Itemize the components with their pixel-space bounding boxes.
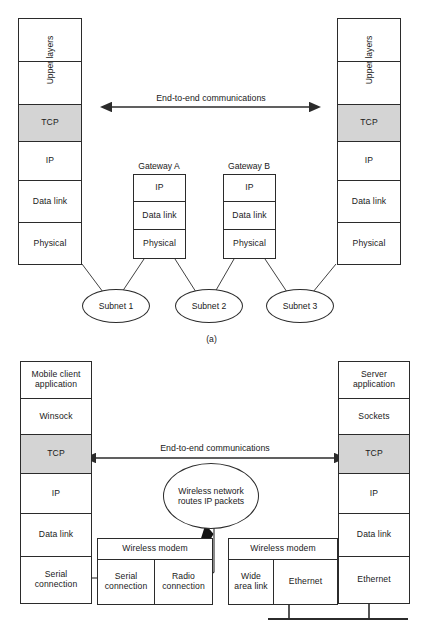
server-sockets-label: Sockets [356,412,391,422]
ethernet-bus-line [268,604,408,619]
wireless-modem-right-cell-ethernet: Ethernet [273,559,338,605]
mobile-cell-tcp: TCP [20,434,92,474]
host-left-datalink-label: Data link [31,197,69,207]
subnet-3-node: Subnet 3 [266,289,334,323]
wireless-cloud-line-1: Wireless network [178,486,243,496]
host-left-physical-label: Physical [32,239,69,249]
host-right-ip-label: IP [363,156,375,166]
mobile-winsock-label: Winsock [37,412,74,422]
server-ip-label: IP [368,489,380,499]
server-datalink-label: Data link [355,530,393,540]
gateway-a-cell-ip: IP [133,174,186,202]
gateway-b-cell-datalink: Data link [223,201,276,230]
host-right-physical-label: Physical [351,239,388,249]
wireless-cloud-line-2: routes IP packets [178,496,244,506]
gateway-a-cell-physical: Physical [133,229,186,259]
gateway-b-physical-label: Physical [231,239,268,249]
gateway-b-ip-label: IP [243,183,255,193]
mobile-application-label: Mobile client application [21,370,91,389]
server-tcp-label: TCP [363,449,385,459]
subnet-1-label: Subnet 1 [99,301,133,311]
end-to-end-label-top: End-to-end communications [132,93,290,103]
gateway-b-cell-ip: IP [223,174,276,202]
server-cell-ethernet: Ethernet [338,556,410,604]
host-left-tcp-label: TCP [39,118,61,128]
host-left-cell-physical: Physical [18,222,82,265]
subnet-3-label: Subnet 3 [283,301,317,311]
wireless-modem-right-title-box: Wireless modem [228,538,338,560]
gateway-a-ip-label: IP [153,183,165,193]
server-ethernet-label: Ethernet [355,575,392,585]
mobile-serial-connection-label: Serial connection [21,570,91,589]
host-right-cell-ip: IP [337,141,401,181]
host-right-cell-physical: Physical [337,222,401,265]
gateway-a-physical-label: Physical [141,239,178,249]
host-left-cell-ip: IP [18,141,82,181]
server-cell-ip: IP [338,473,410,514]
subnet-2-label: Subnet 2 [192,301,226,311]
wireless-modem-right-ethernet-label: Ethernet [287,577,324,587]
gateway-a-title: Gateway A [128,161,190,171]
host-right-cell-datalink: Data link [337,180,401,223]
subnet-1-node: Subnet 1 [82,289,150,323]
host-right-cell-upper-top [337,18,401,62]
server-cell-sockets: Sockets [338,398,410,435]
subnet-connectors-top [82,259,336,292]
host-right-cell-upper-bottom [337,61,401,105]
mobile-datalink-label: Data link [37,530,75,540]
host-left-ip-label: IP [44,156,56,166]
host-left-cell-datalink: Data link [18,180,82,223]
wireless-modem-left-cell-serial: Serial connection [97,559,155,605]
server-cell-datalink: Data link [338,513,410,557]
mobile-cell-serial-connection: Serial connection [20,556,92,604]
wireless-modem-left-title-box: Wireless modem [97,538,213,560]
wireless-modem-right-wide-area-label: Wide area link [229,572,273,591]
subnet-2-node: Subnet 2 [175,289,243,323]
gateway-b-title: Gateway B [218,161,280,171]
wireless-modem-right-cell-wide-area: Wide area link [228,559,274,605]
gateway-a-cell-datalink: Data link [133,201,186,230]
host-left-cell-tcp: TCP [18,104,82,142]
end-to-end-label-bottom: End-to-end communications [136,443,294,453]
wireless-modem-left-title: Wireless modem [120,544,189,554]
mobile-cell-winsock: Winsock [20,398,92,435]
server-cell-tcp: TCP [338,434,410,474]
wireless-network-cloud: Wireless network routes IP packets [163,463,259,529]
mobile-tcp-label: TCP [45,449,67,459]
figure-canvas: Upper layers TCP IP Data link Physical U… [0,0,423,634]
host-right-datalink-label: Data link [350,197,388,207]
server-application-label: Server application [339,370,409,389]
mobile-cell-application: Mobile client application [20,361,92,399]
host-left-cell-upper-top [18,18,82,62]
gateway-a-datalink-label: Data link [140,211,178,221]
mobile-ip-label: IP [50,489,62,499]
wireless-modem-right-title: Wireless modem [248,544,317,554]
wireless-modem-left-radio-label: Radio connection [155,572,212,591]
host-left-cell-upper-bottom [18,61,82,105]
wireless-modem-left-serial-label: Serial connection [98,572,154,591]
gateway-b-cell-physical: Physical [223,229,276,259]
mobile-cell-ip: IP [20,473,92,514]
mobile-cell-datalink: Data link [20,513,92,557]
gateway-b-datalink-label: Data link [230,211,268,221]
wireless-modem-left-cell-radio: Radio connection [154,559,213,605]
host-right-cell-tcp: TCP [337,104,401,142]
server-cell-application: Server application [338,361,410,399]
figure-caption-a: (a) [0,334,423,344]
host-right-tcp-label: TCP [358,118,380,128]
